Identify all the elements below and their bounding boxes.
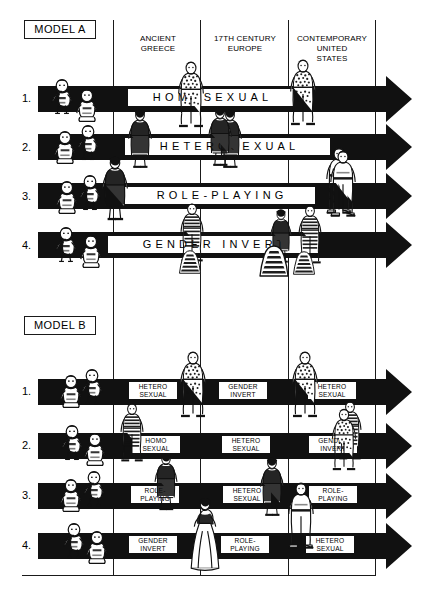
row-number-model-a-1: 1. bbox=[22, 93, 31, 104]
tag-line-1: HOMO bbox=[145, 437, 166, 444]
tag-line-1: HETERO bbox=[232, 437, 261, 444]
tag-model-b-row-1-col-2: GENDER INVERT bbox=[218, 381, 268, 400]
tag-model-b-row-4-col-2: ROLE- PLAYING bbox=[220, 535, 270, 554]
tag-line-1: HETERO bbox=[318, 383, 347, 390]
tag-line-1: GENDER bbox=[318, 437, 347, 444]
diagram-canvas: MODEL A ANCIENT GREECE 17TH CENTURY EURO… bbox=[0, 0, 426, 596]
tag-line-2: SEXUAL bbox=[139, 391, 166, 398]
tag-line-2: PLAYING bbox=[140, 495, 170, 502]
row-number-model-a-2: 2. bbox=[22, 142, 31, 153]
tag-line-1: ROLE- bbox=[322, 487, 343, 494]
tag-line-1: GENDER bbox=[138, 537, 167, 544]
tag-line-1: GENDER bbox=[228, 383, 257, 390]
row-number-model-b-3: 3. bbox=[22, 490, 31, 501]
tag-model-b-row-3-col-2: HETERO SEXUAL bbox=[222, 485, 272, 504]
tag-model-b-row-1-col-3: HETERO SEXUAL bbox=[307, 381, 357, 400]
tag-model-b-row-4-col-3: HETERO SEXUAL bbox=[305, 535, 355, 554]
tag-model-b-row-2-col-3: GENDER INVERT bbox=[308, 435, 358, 454]
tag-model-b-row-2-col-1: HOMO SEXUAL bbox=[131, 435, 181, 454]
banner-model-a-row-3: ROLE-PLAYING bbox=[124, 186, 316, 205]
tag-line-2: INVERT bbox=[140, 545, 165, 552]
tag-line-2: PLAYING bbox=[230, 545, 260, 552]
tag-line-1: ROLE- bbox=[144, 487, 165, 494]
row-number-model-a-4: 4. bbox=[22, 240, 31, 251]
model-b-label: MODEL B bbox=[24, 316, 96, 335]
tag-line-1: HETERO bbox=[233, 487, 262, 494]
row-number-model-b-4: 4. bbox=[22, 540, 31, 551]
tag-line-2: SEXUAL bbox=[316, 545, 343, 552]
tag-model-b-row-2-col-2: HETERO SEXUAL bbox=[221, 435, 271, 454]
banner-model-a-row-1: HOMOSEXUAL bbox=[127, 88, 294, 107]
row-number-model-b-2: 2. bbox=[22, 440, 31, 451]
row-number-model-a-3: 3. bbox=[22, 191, 31, 202]
tag-line-2: INVERT bbox=[230, 391, 255, 398]
tag-line-2: PLAYING bbox=[318, 495, 348, 502]
banner-model-a-row-2: HETEROSEXUAL bbox=[124, 137, 331, 156]
tag-model-b-row-4-col-1: GENDER INVERT bbox=[128, 535, 178, 554]
tag-line-2: SEXUAL bbox=[232, 445, 259, 452]
tag-model-b-row-3-col-3: ROLE- PLAYING bbox=[308, 485, 358, 504]
tag-line-1: HETERO bbox=[139, 383, 168, 390]
banner-model-a-row-4: GENDER INVERT bbox=[107, 235, 319, 254]
tag-model-b-row-3-col-1: ROLE- PLAYING bbox=[130, 485, 180, 504]
tag-line-1: ROLE- bbox=[234, 537, 255, 544]
tag-line-1: HETERO bbox=[316, 537, 345, 544]
tag-line-2: SEXUAL bbox=[142, 445, 169, 452]
tag-line-2: SEXUAL bbox=[233, 495, 260, 502]
tag-line-2: INVERT bbox=[320, 445, 345, 452]
tag-model-b-row-1-col-1: HETERO SEXUAL bbox=[128, 381, 178, 400]
tag-line-2: SEXUAL bbox=[318, 391, 345, 398]
row-number-model-b-1: 1. bbox=[22, 386, 31, 397]
